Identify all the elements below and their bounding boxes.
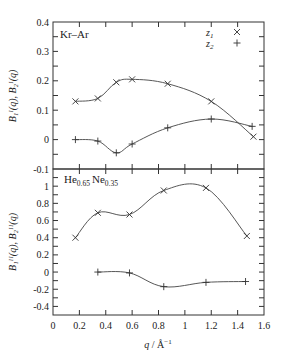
series-line-z1: [75, 184, 246, 238]
x-tick-label: 1.6: [258, 320, 271, 331]
x-tick-label: 0: [51, 320, 56, 331]
plot-frame-bottom: [53, 169, 264, 315]
x-tick-label: 1: [182, 320, 187, 331]
series-markers-z1: [72, 76, 256, 139]
y-tick-label: 0.4: [37, 232, 50, 243]
ticks-top: [53, 22, 264, 169]
series-top: [72, 76, 257, 156]
y-tick-label: 0.3: [37, 46, 50, 57]
y-tick-label: 0.8: [37, 198, 50, 209]
series-line-z2: [98, 272, 246, 287]
x-axis-label: q / Å−1: [144, 338, 172, 350]
y-tick-label: -0.4: [33, 301, 49, 312]
y-tick-label: 0: [44, 267, 49, 278]
y-tick-label: 0: [44, 134, 49, 145]
series-line-z2: [75, 119, 252, 153]
panel-kr-ar: -0.100.10.20.30.4 Kr–Ar z1 z2 B₁ᴵ(q), B₂…: [7, 17, 264, 175]
x-tick-label: 1.4: [231, 320, 244, 331]
x-tick-label: 0.6: [126, 320, 139, 331]
figure: -0.100.10.20.30.4 Kr–Ar z1 z2 B₁ᴵ(q), B₂…: [0, 0, 284, 359]
ticks-bottom: [53, 169, 264, 315]
y-tick-labels-top: -0.100.10.20.30.4: [33, 17, 49, 175]
series-markers-z2: [72, 116, 256, 157]
x-tick-label: 0.2: [73, 320, 86, 331]
plot-frame-top: [53, 22, 264, 169]
panel-title-kr-ar: Kr–Ar: [60, 28, 89, 40]
x-tick-label: 0.4: [100, 320, 113, 331]
y-tick-label: 0.2: [37, 75, 50, 86]
y-tick-label: -0.1: [33, 164, 49, 175]
y-tick-label: 0.1: [37, 105, 50, 116]
y-tick-label: -0.2: [33, 284, 49, 295]
legend: z1 z2: [205, 27, 241, 51]
y-axis-label-top: B₁ᴵ(q), B₂ᴵ(q): [7, 69, 19, 122]
y-tick-label: 0.6: [37, 215, 50, 226]
x-tick-label: 1.2: [205, 320, 218, 331]
y-axis-label-bottom: B₁ᴵᴵ(q), B₂ᴵᴵ(q): [7, 212, 19, 271]
x-tick-label: 0.8: [152, 320, 165, 331]
legend-marker-plus-icon: [234, 40, 241, 47]
y-tick-label: 1: [44, 181, 49, 192]
y-tick-label: 0.2: [37, 249, 50, 260]
series-bottom: [72, 184, 249, 290]
y-tick-label: 0.4: [37, 17, 50, 28]
x-tick-labels: 00.20.40.60.811.21.41.6: [51, 320, 271, 331]
panel-title-he-ne: He0.65Ne0.35: [64, 173, 118, 188]
legend-marker-x-icon: [234, 29, 240, 35]
panel-he-ne: -0.4-0.200.20.40.60.81 00.20.40.60.811.2…: [7, 169, 270, 350]
y-tick-labels-bottom: -0.4-0.200.20.40.60.81: [33, 181, 49, 312]
